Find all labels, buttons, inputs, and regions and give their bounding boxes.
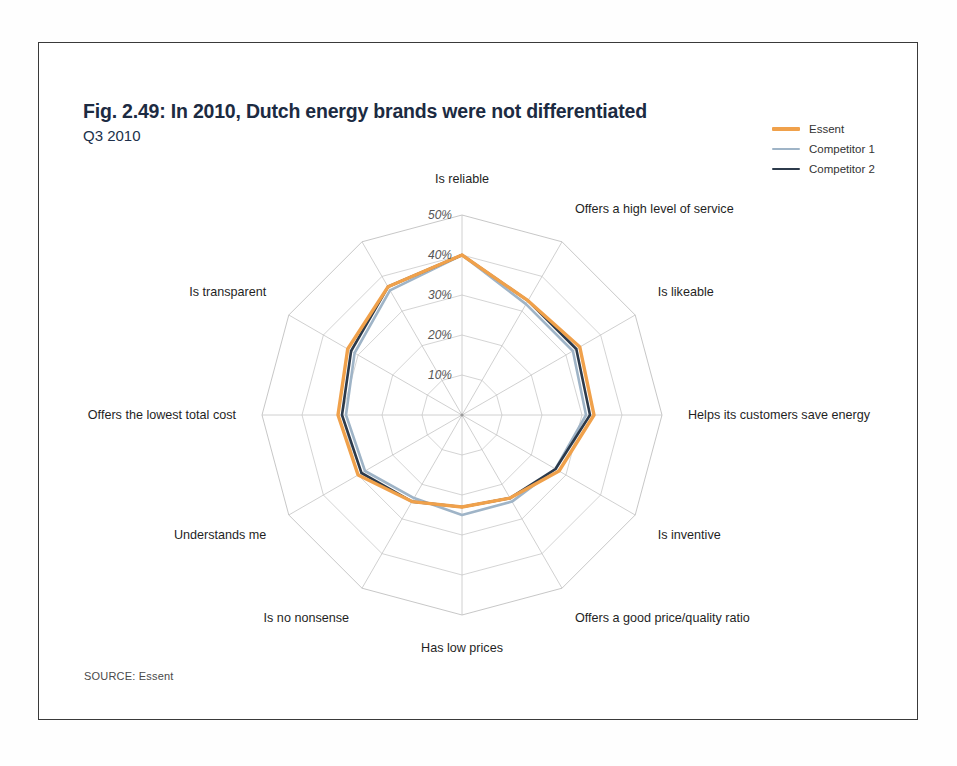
source-note: SOURCE: Essent — [84, 670, 174, 682]
legend-label-competitor-2: Competitor 2 — [809, 163, 875, 175]
page-title: Fig. 2.49: In 2010, Dutch energy brands … — [83, 100, 783, 123]
legend-item-competitor-1[interactable]: Competitor 1 — [772, 140, 922, 158]
legend-swatch-essent — [772, 127, 800, 131]
legend-label-essent: Essent — [809, 123, 844, 135]
legend-swatch-competitor-1 — [772, 148, 800, 150]
legend-item-competitor-2[interactable]: Competitor 2 — [772, 160, 922, 178]
legend-item-essent[interactable]: Essent — [772, 120, 922, 138]
legend-swatch-competitor-2 — [772, 168, 800, 170]
chart-legend: Essent Competitor 1 Competitor 2 — [772, 120, 922, 180]
page-subtitle: Q3 2010 — [83, 127, 483, 144]
legend-label-competitor-1: Competitor 1 — [809, 143, 875, 155]
page-canvas: Fig. 2.49: In 2010, Dutch energy brands … — [0, 0, 957, 766]
